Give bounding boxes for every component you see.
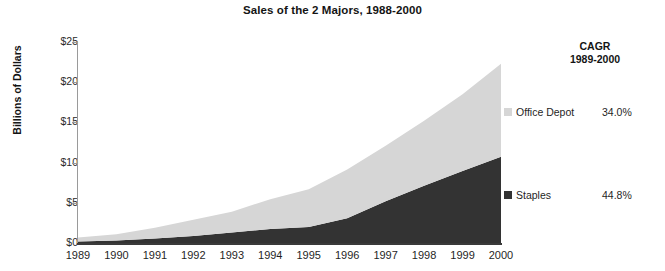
cagr-header-line1: CAGR [540, 40, 650, 53]
cagr-header: CAGR 1989-2000 [540, 40, 650, 66]
legend-item-office-depot[interactable]: Office Depot 34.0% [504, 106, 664, 119]
chart-container: Sales of the 2 Majors, 1988-2000 Billion… [0, 0, 665, 271]
plot-area [78, 42, 501, 243]
legend-swatch-office-depot [504, 108, 512, 116]
cagr-header-line2: 1989-2000 [540, 53, 650, 66]
x-axis-line [77, 243, 502, 245]
legend-value-staples: 44.8% [602, 189, 632, 201]
y-axis-title: Billions of Dollars [11, 10, 23, 170]
legend-item-staples[interactable]: Staples 44.8% [504, 189, 664, 202]
stacked-area-svg [78, 42, 501, 243]
legend-swatch-staples [504, 191, 512, 199]
y-tick-label: $0 [44, 237, 78, 248]
legend-label-staples: Staples [516, 189, 551, 201]
legend-label-office-depot: Office Depot [516, 106, 574, 118]
x-tick-label: 2000 [478, 250, 524, 261]
legend-value-office-depot: 34.0% [602, 106, 632, 118]
chart-title: Sales of the 2 Majors, 1988-2000 [0, 4, 665, 16]
